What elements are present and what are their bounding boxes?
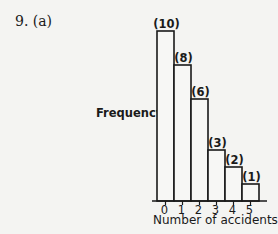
bar-value-label: (1) — [242, 170, 261, 184]
bar-value-label: (8) — [174, 51, 193, 65]
bar-4 — [225, 167, 242, 201]
bar-2 — [191, 99, 208, 201]
bar-value-label: (3) — [208, 136, 227, 150]
bar-value-label: (2) — [225, 153, 244, 167]
bar-value-label: (6) — [191, 85, 210, 99]
histogram: (10)(8)(6)(3)(2)(1) 012345 — [0, 0, 278, 234]
x-axis-label: Number of accidents — [153, 213, 278, 227]
bar-3 — [208, 150, 225, 201]
bar-1 — [174, 65, 191, 201]
bar-value-label: (10) — [153, 17, 180, 31]
bar-5 — [242, 184, 259, 201]
bar-0 — [157, 31, 174, 201]
